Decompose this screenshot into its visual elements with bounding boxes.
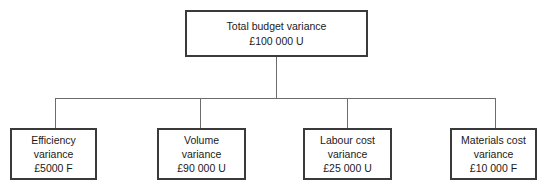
node-title-line2: variance [474, 147, 514, 161]
node-value: £10 000 F [470, 161, 517, 175]
node-title-line1: Efficiency [31, 133, 76, 147]
connector-horizontal-bus [55, 98, 496, 99]
connector-root-stem [276, 57, 277, 98]
connector-drop-efficiency [55, 98, 56, 128]
node-value: £100 000 U [249, 34, 303, 48]
node-title-line1: Labour cost [320, 133, 375, 147]
node-value: £5000 F [34, 161, 73, 175]
node-efficiency-variance: Efficiency variance £5000 F [10, 128, 97, 180]
node-title-line2: variance [328, 147, 368, 161]
connector-drop-volume [200, 98, 201, 128]
node-title: Total budget variance [227, 19, 327, 33]
variance-tree-diagram: Total budget variance £100 000 U Efficie… [0, 0, 553, 191]
node-title-line1: Volume [184, 133, 219, 147]
node-volume-variance: Volume variance £90 000 U [157, 128, 246, 180]
connector-drop-materials-cost [495, 98, 496, 128]
connector-drop-labour-cost [347, 98, 348, 128]
node-materials-cost-variance: Materials cost variance £10 000 F [450, 128, 537, 180]
node-value: £90 000 U [177, 161, 225, 175]
node-title-line1: Materials cost [461, 133, 526, 147]
node-value: £25 000 U [323, 161, 371, 175]
node-labour-cost-variance: Labour cost variance £25 000 U [303, 128, 392, 180]
node-total-budget-variance: Total budget variance £100 000 U [185, 10, 368, 57]
node-title-line2: variance [182, 147, 222, 161]
node-title-line2: variance [34, 147, 74, 161]
